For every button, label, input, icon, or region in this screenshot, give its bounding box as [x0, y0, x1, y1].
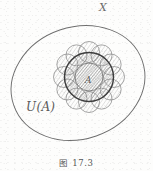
figure-drawing	[0, 0, 153, 171]
universe-label: X	[99, 2, 107, 13]
subset-label: A	[85, 76, 92, 85]
neighborhood-label: U(A)	[26, 101, 55, 113]
figure-container: X U(A) A 图 17.3	[0, 0, 153, 171]
figure-caption: 图 17.3	[0, 156, 153, 168]
